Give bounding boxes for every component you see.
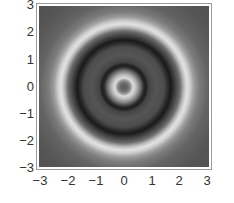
x-tick: −3 [28, 174, 52, 188]
x-tick: 3 [195, 174, 219, 188]
x-tick: 1 [140, 174, 164, 188]
y-tick: 3 [27, 0, 34, 12]
y-tick: 1 [27, 53, 34, 67]
y-tick: 2 [27, 25, 34, 39]
y-tick: −3 [19, 161, 34, 175]
y-tick: −1 [19, 107, 34, 121]
x-tick: 2 [167, 174, 191, 188]
y-tick: 0 [27, 80, 34, 94]
x-tick: 0 [112, 174, 136, 188]
x-tick: −2 [56, 174, 80, 188]
y-tick: −2 [19, 134, 34, 148]
density-plot [39, 6, 209, 167]
x-tick: −1 [84, 174, 108, 188]
